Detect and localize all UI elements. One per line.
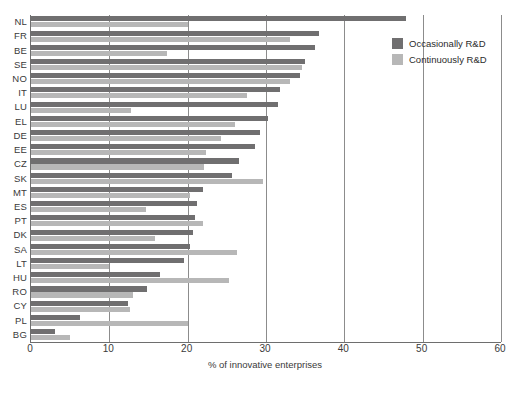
bar-continuously-mt — [31, 193, 190, 198]
bar-occasionally-no — [31, 73, 300, 78]
y-axis-label-fr: FR — [0, 31, 27, 41]
bar-occasionally-ro — [31, 286, 147, 291]
y-axis-label-pt: PT — [0, 216, 27, 226]
bar-occasionally-el — [31, 116, 268, 121]
bar-row-nl — [31, 15, 501, 29]
x-tick-10: 10 — [103, 343, 114, 355]
bar-continuously-lu — [31, 108, 131, 113]
bar-continuously-it — [31, 93, 247, 98]
y-axis-label-es: ES — [0, 202, 27, 212]
bar-row-ee — [31, 143, 501, 157]
bar-continuously-bg — [31, 335, 70, 340]
bar-occasionally-pl — [31, 315, 80, 320]
bar-row-lt — [31, 257, 501, 271]
bar-occasionally-be — [31, 45, 315, 50]
bar-occasionally-ee — [31, 144, 255, 149]
bar-occasionally-cy — [31, 301, 128, 306]
legend-label-continuously: Continuously R&D — [409, 54, 487, 65]
y-axis-label-ee: EE — [0, 145, 27, 155]
bar-row-de — [31, 129, 501, 143]
bar-row-hu — [31, 271, 501, 285]
bar-row-bg — [31, 328, 501, 342]
y-axis-label-dk: DK — [0, 230, 27, 240]
bar-occasionally-lu — [31, 102, 278, 107]
y-axis-label-nl: NL — [0, 17, 27, 27]
y-axis-label-lu: LU — [0, 102, 27, 112]
y-axis-label-mt: MT — [0, 188, 27, 198]
y-axis-label-hu: HU — [0, 273, 27, 283]
bar-row-cz — [31, 157, 501, 171]
x-tick-40: 40 — [338, 343, 349, 355]
y-axis-label-it: IT — [0, 88, 27, 98]
bar-occasionally-lt — [31, 258, 184, 263]
bar-continuously-pl — [31, 321, 188, 326]
x-axis-tick-labels: 0102030405060 — [30, 343, 500, 357]
y-axis-label-be: BE — [0, 46, 27, 56]
bar-occasionally-de — [31, 130, 260, 135]
bar-continuously-pt — [31, 221, 203, 226]
bar-continuously-fr — [31, 37, 290, 42]
legend-swatch-icon-continuously — [392, 54, 403, 65]
y-axis-label-se: SE — [0, 60, 27, 70]
legend-item-occasionally-rd: Occasionally R&D — [392, 38, 487, 49]
x-tick-30: 30 — [259, 343, 270, 355]
bar-occasionally-cz — [31, 158, 239, 163]
x-tick-50: 50 — [416, 343, 427, 355]
bar-row-pl — [31, 314, 501, 328]
y-axis-label-ro: RO — [0, 287, 27, 297]
x-tick-0: 0 — [27, 343, 33, 355]
bar-continuously-dk — [31, 236, 155, 241]
bar-continuously-cy — [31, 307, 130, 312]
bar-row-es — [31, 200, 501, 214]
bar-continuously-lt — [31, 264, 109, 269]
bar-row-pt — [31, 214, 501, 228]
y-axis-label-bg: BG — [0, 330, 27, 340]
bar-continuously-cz — [31, 164, 204, 169]
bar-continuously-ee — [31, 150, 206, 155]
legend-swatch-icon-occasionally — [392, 38, 403, 49]
bar-occasionally-pt — [31, 215, 195, 220]
bar-occasionally-es — [31, 201, 197, 206]
bar-occasionally-nl — [31, 16, 406, 21]
bar-row-ro — [31, 285, 501, 299]
y-axis-label-de: DE — [0, 131, 27, 141]
y-axis-label-sk: SK — [0, 174, 27, 184]
clipped-title-fragment — [0, 0, 516, 9]
bar-continuously-el — [31, 122, 235, 127]
y-axis-label-cy: CY — [0, 301, 27, 311]
bar-row-mt — [31, 186, 501, 200]
y-axis-label-cz: CZ — [0, 159, 27, 169]
bar-continuously-sa — [31, 250, 237, 255]
y-axis-label-no: NO — [0, 74, 27, 84]
bar-continuously-es — [31, 207, 146, 212]
y-axis-category-labels: NLFRBESENOITLUELDEEECZSKMTESPTDKSALTHURO… — [0, 15, 27, 342]
x-axis-title: % of innovative enterprises — [30, 359, 500, 370]
bar-continuously-no — [31, 79, 290, 84]
bar-occasionally-sa — [31, 244, 190, 249]
bar-row-el — [31, 115, 501, 129]
bar-continuously-ro — [31, 292, 133, 297]
bar-row-it — [31, 86, 501, 100]
bar-row-lu — [31, 100, 501, 114]
gridline-60 — [501, 15, 502, 342]
bar-occasionally-dk — [31, 230, 193, 235]
bar-row-cy — [31, 299, 501, 313]
bar-occasionally-mt — [31, 187, 203, 192]
bar-row-no — [31, 72, 501, 86]
bar-occasionally-se — [31, 59, 305, 64]
y-axis-label-el: EL — [0, 117, 27, 127]
legend-label-occasionally: Occasionally R&D — [409, 38, 486, 49]
bar-occasionally-it — [31, 87, 280, 92]
bar-occasionally-sk — [31, 173, 232, 178]
bar-occasionally-fr — [31, 31, 319, 36]
bar-row-sa — [31, 242, 501, 256]
x-tick-20: 20 — [181, 343, 192, 355]
chart-container: NLFRBESENOITLUELDEEECZSKMTESPTDKSALTHURO… — [0, 0, 516, 394]
bar-occasionally-hu — [31, 272, 160, 277]
bar-continuously-de — [31, 136, 221, 141]
bar-continuously-sk — [31, 179, 263, 184]
bar-occasionally-bg — [31, 329, 55, 334]
legend-item-continuously-rd: Continuously R&D — [392, 54, 487, 65]
bar-continuously-nl — [31, 22, 188, 27]
bar-continuously-se — [31, 65, 302, 70]
